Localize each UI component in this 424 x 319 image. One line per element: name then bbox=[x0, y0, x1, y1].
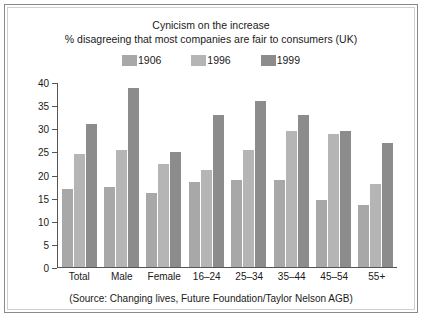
bar bbox=[86, 124, 97, 267]
bar-group bbox=[312, 83, 354, 267]
y-tick-mark bbox=[52, 245, 57, 246]
bar bbox=[370, 184, 381, 267]
x-axis-label: 16–24 bbox=[186, 271, 229, 282]
y-tick-label: 35 bbox=[38, 101, 49, 112]
bar-groups bbox=[58, 83, 397, 267]
y-tick-label: 25 bbox=[38, 147, 49, 158]
y-tick-mark bbox=[52, 83, 57, 84]
x-axis-label: Male bbox=[101, 271, 144, 282]
chart-subtitle: % disagreeing that most companies are fa… bbox=[5, 32, 417, 46]
bar bbox=[298, 115, 309, 267]
legend-label-1906: 1906 bbox=[138, 54, 161, 66]
y-tick-label: 40 bbox=[38, 78, 49, 89]
bar bbox=[243, 150, 254, 267]
x-axis-label: Female bbox=[143, 271, 186, 282]
y-tick-label: 30 bbox=[38, 124, 49, 135]
chart-source-note: (Source: Changing lives, Future Foundati… bbox=[5, 293, 417, 304]
bar bbox=[170, 152, 181, 267]
bar bbox=[128, 88, 139, 267]
bar-group bbox=[100, 83, 142, 267]
bar-group bbox=[270, 83, 312, 267]
x-axis-label: Total bbox=[58, 271, 101, 282]
bar-group bbox=[355, 83, 397, 267]
bar-group bbox=[228, 83, 270, 267]
plot-area: 0510152025303540 bbox=[57, 83, 397, 268]
bar bbox=[286, 131, 297, 267]
y-tick-mark bbox=[52, 152, 57, 153]
x-axis-label: 25–34 bbox=[228, 271, 271, 282]
bar bbox=[213, 115, 224, 267]
bar bbox=[74, 154, 85, 267]
bar bbox=[316, 200, 327, 267]
y-tick-mark bbox=[52, 199, 57, 200]
chart-title-block: Cynicism on the increase % disagreeing t… bbox=[5, 18, 417, 46]
x-axis-label: 45–54 bbox=[313, 271, 356, 282]
bar bbox=[255, 101, 266, 267]
bar bbox=[158, 164, 169, 268]
bar bbox=[382, 143, 393, 267]
legend-item-1996: 1996 bbox=[191, 54, 230, 66]
legend-label-1999: 1999 bbox=[277, 54, 300, 66]
bar bbox=[104, 187, 115, 268]
legend-label-1996: 1996 bbox=[207, 54, 230, 66]
y-tick-label: 5 bbox=[43, 239, 49, 250]
y-tick-mark bbox=[52, 176, 57, 177]
x-axis-line bbox=[57, 267, 397, 268]
x-axis-label: 35–44 bbox=[271, 271, 314, 282]
legend-swatch-1996 bbox=[191, 55, 206, 66]
legend-item-1999: 1999 bbox=[261, 54, 300, 66]
bar bbox=[62, 189, 73, 267]
chart-legend: 1906 1996 1999 bbox=[5, 54, 417, 66]
x-axis-labels: TotalMaleFemale16–2425–3435–4445–5455+ bbox=[58, 271, 398, 282]
legend-swatch-1999 bbox=[261, 55, 276, 66]
y-tick-label: 10 bbox=[38, 216, 49, 227]
y-tick-mark bbox=[52, 129, 57, 130]
legend-swatch-1906 bbox=[122, 55, 137, 66]
y-tick-label: 0 bbox=[43, 263, 49, 274]
bar bbox=[201, 170, 212, 267]
y-tick-mark bbox=[52, 106, 57, 107]
bar bbox=[328, 134, 339, 267]
bar bbox=[340, 131, 351, 267]
bar bbox=[274, 180, 285, 267]
bar bbox=[116, 150, 127, 267]
bar-group bbox=[185, 83, 227, 267]
bar-group bbox=[143, 83, 185, 267]
chart-frame: Cynicism on the increase % disagreeing t… bbox=[4, 4, 418, 313]
legend-item-1906: 1906 bbox=[122, 54, 161, 66]
y-tick-mark bbox=[52, 222, 57, 223]
bar bbox=[231, 180, 242, 267]
bar bbox=[358, 205, 369, 267]
chart-title: Cynicism on the increase bbox=[5, 18, 417, 32]
bar bbox=[146, 193, 157, 267]
y-tick-label: 20 bbox=[38, 170, 49, 181]
y-tick-label: 15 bbox=[38, 193, 49, 204]
y-tick-mark bbox=[52, 268, 57, 269]
x-axis-label: 55+ bbox=[356, 271, 399, 282]
bar bbox=[189, 182, 200, 267]
bar-group bbox=[58, 83, 100, 267]
